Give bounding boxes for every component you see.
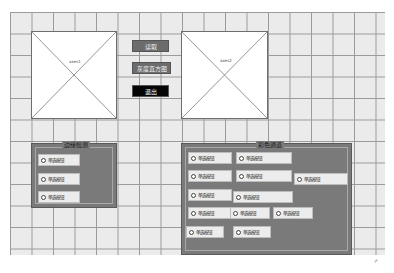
color-panel-title: 彩色通道 [256, 141, 284, 149]
axes2-label: axes2 [220, 58, 232, 63]
axes1-label: axes1 [69, 59, 81, 64]
radio-label: 单选按钮 [198, 210, 214, 216]
radio-circle-icon [276, 211, 281, 216]
radio-circle-icon [191, 211, 196, 216]
radio-label: 单选按钮 [48, 194, 64, 200]
color-radio-4[interactable]: 单选按钮 [236, 170, 292, 182]
radio-label: 单选按钮 [198, 192, 214, 198]
radio-label: 单选按钮 [198, 173, 214, 179]
color-radio-12[interactable]: 单选按钮 [233, 226, 271, 238]
radio-circle-icon [189, 230, 194, 235]
radio-circle-icon [239, 174, 244, 179]
radio-label: 单选按钮 [246, 173, 262, 179]
color-radio-9[interactable]: 单选按钮 [230, 207, 270, 219]
radio-circle-icon [236, 230, 241, 235]
edge-detection-panel: 边缘检测 单选按钮 单选按钮 单选按钮 [31, 143, 117, 208]
radio-circle-icon [191, 193, 196, 198]
radio-label: 单选按钮 [48, 157, 64, 163]
radio-circle-icon [191, 174, 196, 179]
cross-placeholder-icon [182, 32, 267, 118]
radio-label: 单选按钮 [243, 229, 259, 235]
radio-label: 单选按钮 [240, 210, 256, 216]
axes2-placeholder: axes2 [181, 31, 268, 119]
exit-button[interactable]: 退出 [132, 85, 169, 97]
axes1-placeholder: axes1 [31, 31, 117, 119]
color-radio-8[interactable]: 单选按钮 [188, 207, 232, 219]
edge-radio-3[interactable]: 单选按钮 [38, 191, 80, 203]
color-radio-1[interactable]: 单选按钮 [188, 152, 232, 164]
radio-label: 单选按钮 [243, 194, 259, 200]
radio-circle-icon [41, 177, 46, 182]
color-radio-2[interactable]: 单选按钮 [236, 152, 292, 164]
color-radio-7[interactable]: 单选按钮 [233, 191, 293, 203]
radio-label: 单选按钮 [283, 210, 299, 216]
radio-label: 单选按钮 [304, 176, 320, 182]
color-radio-3[interactable]: 单选按钮 [188, 170, 232, 182]
radio-label: 单选按钮 [246, 155, 262, 161]
radio-label: 单选按钮 [48, 176, 64, 182]
edge-radio-1[interactable]: 单选按钮 [38, 154, 80, 166]
radio-circle-icon [297, 177, 302, 182]
read-button[interactable]: 读取 [132, 40, 169, 52]
histogram-button[interactable]: 灰度直方图 [132, 62, 171, 74]
radio-circle-icon [191, 156, 196, 161]
color-radio-5[interactable]: 单选按钮 [294, 173, 348, 185]
color-radio-6[interactable]: 单选按钮 [188, 189, 232, 201]
cross-placeholder-icon [32, 32, 116, 118]
corner-marker-icon: ↱ [374, 258, 378, 264]
radio-circle-icon [239, 156, 244, 161]
edge-panel-title: 边缘检测 [62, 141, 90, 149]
color-radio-11[interactable]: 单选按钮 [186, 226, 224, 238]
radio-circle-icon [233, 211, 238, 216]
color-radio-10[interactable]: 单选按钮 [273, 207, 313, 219]
color-channel-panel: 彩色通道 单选按钮 单选按钮 单选按钮 单选按钮 单选按钮 单选按钮 单选按钮 … [181, 143, 352, 255]
radio-circle-icon [41, 195, 46, 200]
radio-circle-icon [41, 158, 46, 163]
radio-circle-icon [236, 195, 241, 200]
radio-label: 单选按钮 [198, 155, 214, 161]
radio-label: 单选按钮 [196, 229, 212, 235]
edge-radio-2[interactable]: 单选按钮 [38, 173, 80, 185]
